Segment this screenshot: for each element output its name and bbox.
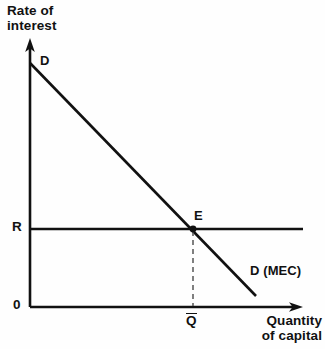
x-axis-label-line1: Quantity bbox=[266, 313, 322, 328]
quantity-tick-label-text: Q bbox=[186, 313, 197, 328]
x-axis-label-line2: of capital bbox=[262, 328, 322, 343]
demand-curve bbox=[30, 63, 256, 296]
rate-tick-label: R bbox=[12, 219, 22, 234]
equilibrium-point-marker bbox=[190, 226, 197, 233]
origin-label: 0 bbox=[13, 297, 21, 312]
demand-curve-bottom-label: D (MEC) bbox=[250, 264, 301, 279]
y-axis-label-line1: Rate of bbox=[7, 3, 53, 18]
x-axis-label: Quantityof capital bbox=[252, 313, 322, 343]
quantity-tick-label: Q bbox=[186, 313, 197, 328]
y-axis-label: Rate ofinterest bbox=[7, 3, 57, 33]
investment-demand-chart: Rate ofinterest Quantityof capital 0 R Q… bbox=[0, 0, 325, 349]
demand-curve-top-label: D bbox=[40, 54, 50, 69]
y-axis-label-line2: interest bbox=[7, 18, 57, 33]
equilibrium-point-label: E bbox=[194, 209, 203, 224]
